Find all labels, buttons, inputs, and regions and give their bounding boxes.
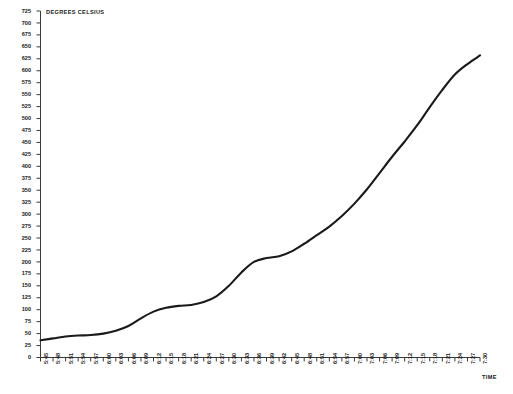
y-tick-label: 150 — [5, 282, 31, 288]
y-tick-label: 25 — [5, 342, 31, 348]
y-tick-label: 675 — [5, 31, 31, 37]
chart-plot-area — [0, 0, 513, 394]
x-tick-label: 6:48 — [307, 353, 313, 364]
x-tick-label: 6:12 — [156, 353, 162, 364]
x-tick-label: 6:00 — [106, 353, 112, 364]
x-tick-label: 5:45 — [43, 353, 49, 364]
y-tick-label: 475 — [5, 127, 31, 133]
y-tick-label: 175 — [5, 270, 31, 276]
x-tick-label: 6:57 — [344, 353, 350, 364]
x-tick-label: 6:27 — [219, 353, 225, 364]
x-tick-label: 7:18 — [432, 353, 438, 364]
y-tick-label: 75 — [5, 318, 31, 324]
y-tick-label: 725 — [5, 8, 31, 14]
y-tick-label: 350 — [5, 187, 31, 193]
y-tick-label: 500 — [5, 115, 31, 121]
y-tick-label: 425 — [5, 151, 31, 157]
x-tick-label: 5:51 — [68, 353, 74, 364]
y-tick-label: 275 — [5, 223, 31, 229]
x-tick-label: 7:06 — [382, 353, 388, 364]
y-tick-label: 450 — [5, 139, 31, 145]
y-tick-label: 625 — [5, 55, 31, 61]
x-tick-label: 7:09 — [394, 353, 400, 364]
x-tick-label: 6:15 — [168, 353, 174, 364]
y-tick-label: 50 — [5, 330, 31, 336]
x-tick-label: 6:39 — [269, 353, 275, 364]
y-tick-label: 100 — [5, 306, 31, 312]
x-tick-label: 5:57 — [93, 353, 99, 364]
x-tick-label: 7:21 — [445, 353, 451, 364]
y-tick-label: 525 — [5, 103, 31, 109]
y-tick-label: 225 — [5, 247, 31, 253]
x-tick-label: 6:42 — [281, 353, 287, 364]
y-tick-label: 0 — [5, 354, 31, 360]
y-tick-label: 200 — [5, 259, 31, 265]
x-tick-label: 7:24 — [457, 353, 463, 364]
y-tick-label: 375 — [5, 175, 31, 181]
x-tick-label: 6:33 — [244, 353, 250, 364]
x-tick-label: 7:12 — [407, 353, 413, 364]
x-tick-label: 6:36 — [256, 353, 262, 364]
x-tick-label: 7:03 — [369, 353, 375, 364]
x-tick-label: 6:06 — [131, 353, 137, 364]
chart-container: DEGREES CELSIUS TIME 0255075100125150175… — [0, 0, 513, 394]
x-tick-label: 6:03 — [118, 353, 124, 364]
temperature-data-line — [41, 55, 481, 340]
x-tick-label: 5:48 — [55, 353, 61, 364]
x-tick-label: 5:54 — [80, 353, 86, 364]
x-tick-label: 6:09 — [143, 353, 149, 364]
x-tick-label: 7:00 — [357, 353, 363, 364]
y-tick-label: 400 — [5, 163, 31, 169]
y-tick-label: 550 — [5, 91, 31, 97]
y-tick-label: 575 — [5, 79, 31, 85]
x-tick-label: 6:21 — [193, 353, 199, 364]
y-tick-label: 125 — [5, 294, 31, 300]
y-tick-label: 650 — [5, 43, 31, 49]
y-tick-marks — [37, 11, 41, 358]
y-tick-label: 325 — [5, 199, 31, 205]
y-axis-title: DEGREES CELSIUS — [46, 9, 104, 15]
x-tick-label: 7:30 — [482, 353, 488, 364]
y-tick-label: 600 — [5, 67, 31, 73]
x-tick-label: 6:54 — [332, 353, 338, 364]
axis-lines — [41, 11, 481, 358]
y-tick-label: 300 — [5, 211, 31, 217]
x-tick-label: 7:15 — [420, 353, 426, 364]
x-tick-label: 6:45 — [294, 353, 300, 364]
x-tick-label: 6:30 — [231, 353, 237, 364]
x-tick-label: 7:27 — [470, 353, 476, 364]
y-tick-label: 250 — [5, 235, 31, 241]
y-tick-label: 700 — [5, 20, 31, 26]
x-axis-title: TIME — [482, 374, 497, 380]
x-tick-label: 6:18 — [181, 353, 187, 364]
x-tick-label: 6:24 — [206, 353, 212, 364]
x-tick-label: 6:51 — [319, 353, 325, 364]
